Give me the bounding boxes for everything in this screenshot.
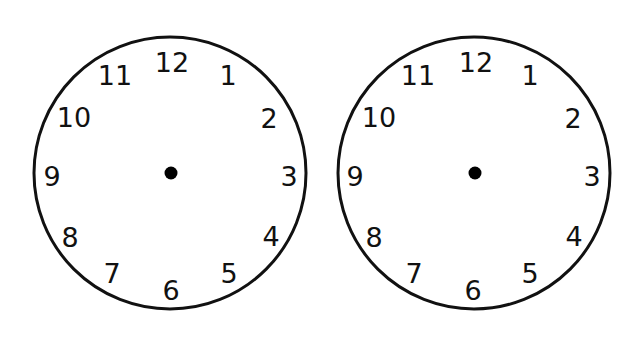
- clock-worksheet: 121234567891011 121234567891011: [0, 0, 641, 337]
- clock-numeral-5: 5: [220, 258, 237, 289]
- center-dot-icon: [165, 167, 178, 180]
- clock-numeral-12: 12: [459, 47, 493, 78]
- clock-numeral-8: 8: [365, 222, 382, 253]
- clock-face-left: 121234567891011: [34, 37, 306, 309]
- clock-numeral-10: 10: [362, 102, 396, 133]
- clock-numeral-11: 11: [401, 60, 435, 91]
- center-dot-icon: [469, 167, 482, 180]
- clock-numeral-1: 1: [219, 60, 236, 91]
- clock-numeral-6: 6: [162, 275, 179, 306]
- clock-numeral-12: 12: [155, 47, 189, 78]
- clock-numeral-5: 5: [521, 258, 538, 289]
- clock-numeral-9: 9: [43, 161, 60, 192]
- clock-numeral-7: 7: [405, 258, 422, 289]
- clock-numeral-6: 6: [464, 275, 481, 306]
- clock-numeral-11: 11: [98, 60, 132, 91]
- clock-face-right: 121234567891011: [338, 37, 610, 309]
- clock-numeral-9: 9: [346, 161, 363, 192]
- clock-numeral-10: 10: [57, 102, 91, 133]
- clock-numeral-2: 2: [260, 103, 277, 134]
- clock-numeral-8: 8: [61, 222, 78, 253]
- clock-numeral-4: 4: [262, 221, 279, 252]
- clock-numeral-2: 2: [564, 103, 581, 134]
- clock-numeral-4: 4: [565, 221, 582, 252]
- clock-numeral-3: 3: [280, 161, 297, 192]
- clock-numeral-1: 1: [521, 60, 538, 91]
- clock-numeral-7: 7: [103, 258, 120, 289]
- clock-numeral-3: 3: [583, 161, 600, 192]
